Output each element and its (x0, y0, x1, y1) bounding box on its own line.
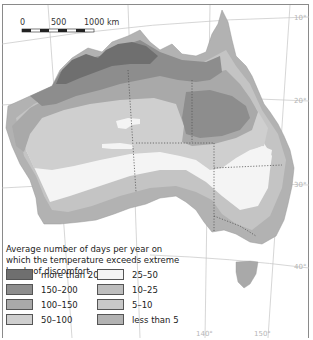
legend-swatch (6, 314, 33, 325)
legend-item: less than 5 (97, 313, 179, 326)
legend-item: 5–10 (97, 298, 152, 311)
longitude-label-140: 140° (196, 330, 213, 338)
legend-label: less than 5 (132, 315, 179, 325)
legend-item: 150–200 (6, 283, 78, 296)
legend-item: 25–50 (97, 268, 158, 281)
legend-swatch (97, 284, 124, 295)
legend-item: 10–25 (97, 283, 158, 296)
legend-swatch (97, 299, 124, 310)
latitude-label-40: 40° (294, 263, 306, 271)
scale-bar (22, 29, 94, 32)
legend-label: 100–150 (41, 300, 78, 310)
legend-item: 50–100 (6, 313, 72, 326)
legend-label: 150–200 (41, 285, 78, 295)
scale-label-0: 0 (20, 18, 25, 27)
legend-label: 25–50 (132, 270, 158, 280)
legend-swatch (97, 314, 124, 325)
legend-swatch (6, 299, 33, 310)
legend-swatch (97, 269, 124, 280)
longitude-label-150: 150° (254, 330, 271, 338)
scale-label-1000: 1000 km (84, 18, 119, 27)
legend-label: 50–100 (41, 315, 72, 325)
legend-label: 5–10 (132, 300, 152, 310)
latitude-label-10: 10° (294, 14, 306, 22)
latitude-label-30: 30° (294, 181, 306, 189)
legend-label: more than 200 (41, 270, 104, 280)
scale-label-500: 500 (51, 18, 66, 27)
legend-swatch (6, 284, 33, 295)
legend-item: 100–150 (6, 298, 78, 311)
legend-item: more than 200 (6, 268, 104, 281)
legend-swatch (6, 269, 33, 280)
legend-label: 10–25 (132, 285, 158, 295)
tasmania (236, 261, 258, 288)
latitude-label-20: 20° (294, 97, 306, 105)
